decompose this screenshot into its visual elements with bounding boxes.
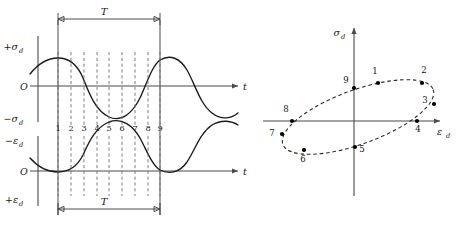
svg-text:+σ: +σ xyxy=(4,41,19,52)
loop-x-axis-arrow xyxy=(434,118,440,123)
svg-text:d: d xyxy=(19,200,23,208)
loop-points: 1 2 3 4 5 6 7 8 9 xyxy=(269,65,436,164)
period-label-top: T xyxy=(101,6,109,17)
tick-number: 3 xyxy=(81,123,86,133)
loop-point-label: 3 xyxy=(422,95,427,105)
loop-y-axis-label: σ d xyxy=(334,27,346,41)
right-panel: σ d ε d 1 2 3 4 5 xyxy=(263,27,450,196)
stress-y-top-label: +σ d xyxy=(4,41,24,55)
period-dimension-bottom: T xyxy=(58,196,160,215)
svg-text:d: d xyxy=(446,132,450,140)
svg-text:d: d xyxy=(19,141,23,149)
svg-text:ε: ε xyxy=(437,126,442,137)
loop-point-marker xyxy=(420,81,424,85)
tick-number: 8 xyxy=(145,123,150,133)
left-panel: T +σ d O −σ xyxy=(4,6,247,215)
svg-text:d: d xyxy=(19,119,23,127)
loop-point-marker xyxy=(376,81,380,85)
svg-text:−ε: −ε xyxy=(5,135,18,146)
loop-y-axis-arrow xyxy=(351,28,356,34)
loop-point-label: 2 xyxy=(421,65,426,75)
stress-waveform xyxy=(30,57,238,118)
strain-dashed-lines xyxy=(58,136,160,196)
strain-origin-label: O xyxy=(20,166,28,177)
loop-point-label: 4 xyxy=(415,124,421,134)
period-label-bottom: T xyxy=(101,196,109,207)
loop-point-marker xyxy=(302,148,306,152)
tick-number: 2 xyxy=(68,123,73,133)
loop-point-marker xyxy=(280,132,284,136)
svg-text:+ε: +ε xyxy=(5,194,18,205)
strain-x-axis-arrow xyxy=(232,168,238,173)
stress-x-axis-label: t xyxy=(243,81,247,92)
stress-vs-time-plot: +σ d O −σ d t xyxy=(4,36,247,127)
strain-y-bottom-label: +ε d xyxy=(5,194,23,208)
loop-point-label: 7 xyxy=(269,128,274,138)
tick-number: 1 xyxy=(55,123,60,133)
loop-point-label: 8 xyxy=(283,104,288,114)
loop-point-label: 6 xyxy=(300,154,305,164)
loop-point-marker xyxy=(432,102,436,106)
figure-root: T +σ d O −σ xyxy=(0,0,461,233)
svg-text:−σ: −σ xyxy=(4,113,19,124)
loop-point-marker xyxy=(353,145,357,149)
period-dimension-top: T xyxy=(58,6,160,25)
svg-text:σ: σ xyxy=(334,27,341,38)
svg-text:d: d xyxy=(341,33,345,41)
loop-point-marker xyxy=(352,86,356,90)
tick-number: 6 xyxy=(119,123,124,133)
figure-svg: T +σ d O −σ xyxy=(0,0,461,233)
svg-text:d: d xyxy=(19,47,23,55)
strain-vs-time-plot: −ε d O +ε d t xyxy=(5,121,247,208)
loop-point-marker xyxy=(415,119,419,123)
loop-point-label: 1 xyxy=(372,66,377,76)
stress-origin-label: O xyxy=(20,81,28,92)
tick-number: 5 xyxy=(106,123,111,133)
loop-point-marker xyxy=(290,119,294,123)
loop-x-axis-label: ε d xyxy=(437,126,450,140)
hysteresis-loop-curve xyxy=(274,64,443,169)
tick-number: 9 xyxy=(157,123,162,133)
tick-number-row: 1 2 3 4 5 6 7 8 9 xyxy=(55,123,162,133)
strain-y-top-label: −ε d xyxy=(5,135,23,149)
strain-x-axis-label: t xyxy=(243,166,247,177)
stress-x-axis-arrow xyxy=(232,83,238,88)
loop-point-label: 5 xyxy=(359,144,364,154)
stress-y-bottom-label: −σ d xyxy=(4,113,24,127)
loop-point-label: 9 xyxy=(343,75,348,85)
